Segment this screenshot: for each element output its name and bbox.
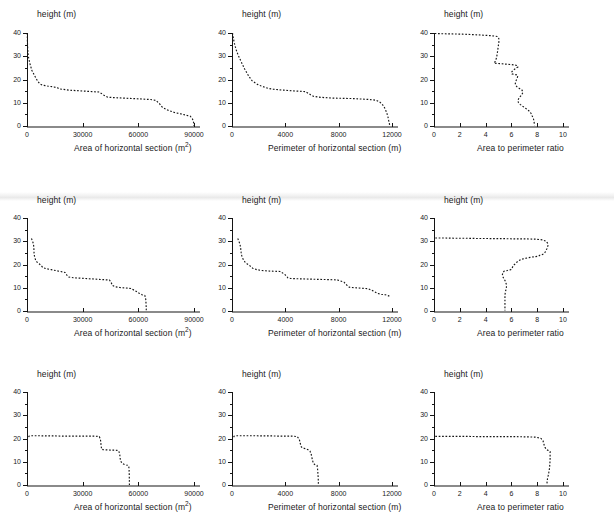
data-series-line bbox=[435, 436, 550, 484]
figure-panel-grid: height (m)Area of horizontal section (m2… bbox=[0, 0, 614, 532]
plot-panel-r3c3: height (m)Area to perimeter ratio0102030… bbox=[0, 0, 614, 532]
curve-svg bbox=[0, 0, 614, 532]
